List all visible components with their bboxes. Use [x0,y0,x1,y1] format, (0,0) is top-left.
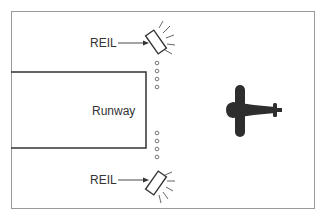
reil-bottom-label: REIL [90,173,117,187]
reil-light-icon [146,21,175,54]
runway-label: Runway [92,104,135,118]
diagram-canvas [0,0,325,222]
runway-edge-lights-bottom [155,131,159,159]
runway-edge-lights-top [155,61,159,89]
airplane-icon [226,85,282,137]
reil-light-icon [146,171,175,203]
reil-top-label: REIL [90,36,117,50]
